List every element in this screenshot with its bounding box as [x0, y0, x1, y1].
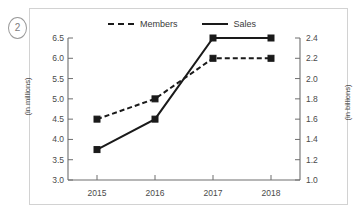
legend-label-sales: Sales: [234, 19, 257, 29]
y-tick-label-left: 4.0: [45, 134, 64, 144]
plot-area: [68, 38, 300, 180]
y-tick-label-left: 5.5: [45, 74, 64, 84]
chart-legend: Members Sales: [108, 16, 298, 32]
y-tick-label-right: 1.4: [306, 134, 318, 144]
legend-solid-line-icon: [202, 23, 228, 25]
y-tick-label-left: 4.5: [45, 114, 64, 124]
y-tick-label-left: 3.5: [45, 155, 64, 165]
y-tick-label-right: 2.2: [306, 53, 318, 63]
legend-item-members: Members: [108, 19, 178, 29]
item-number-badge: 2: [8, 17, 27, 39]
legend-label-members: Members: [140, 19, 178, 29]
y-axis-left-title: (in millions): [23, 62, 32, 132]
y-tick-label-left: 5.0: [45, 94, 64, 104]
y-tick-label-right: 1.8: [306, 94, 318, 104]
series-line-sales: [97, 38, 271, 150]
x-tick-label: 2017: [193, 188, 233, 198]
y-tick-label-left: 6.5: [45, 33, 64, 43]
data-point-marker-members: [268, 55, 274, 61]
x-tick-label: 2016: [135, 188, 175, 198]
chart-canvas: [68, 38, 300, 180]
data-point-marker-members: [210, 55, 216, 61]
y-axis-right-title: (in billions): [343, 68, 352, 138]
y-tick-label-right: 1.6: [306, 114, 318, 124]
legend-dashed-line-icon: [108, 23, 134, 25]
y-tick-label-right: 2.4: [306, 33, 318, 43]
y-tick-label-left: 3.0: [45, 175, 64, 185]
y-tick-label-right: 2.0: [306, 74, 318, 84]
x-tick-label: 2015: [77, 188, 117, 198]
data-point-marker-sales: [152, 116, 158, 122]
data-point-marker-sales: [268, 35, 274, 41]
chart-figure: 2 Members Sales (in millions) (in billio…: [0, 0, 355, 217]
legend-item-sales: Sales: [202, 19, 257, 29]
y-tick-label-right: 1.0: [306, 175, 318, 185]
data-series-layer: [94, 35, 274, 153]
x-tick-label: 2018: [251, 188, 291, 198]
data-point-marker-members: [152, 96, 158, 102]
axis-lines: [68, 38, 300, 180]
series-line-members: [97, 58, 271, 119]
data-point-marker-sales: [210, 35, 216, 41]
data-point-marker-sales: [94, 147, 100, 153]
y-tick-label-left: 6.0: [45, 53, 64, 63]
y-tick-label-right: 1.2: [306, 155, 318, 165]
data-point-marker-members: [94, 116, 100, 122]
